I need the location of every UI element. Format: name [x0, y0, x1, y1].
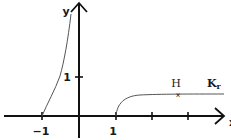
left-branch-curve: [42, 14, 71, 116]
x-axis: [4, 108, 224, 124]
right-branch-curve: [116, 94, 224, 116]
curve-kr-subscript: r: [217, 81, 222, 91]
function-graph: × y x −1 1 1 H Kr: [0, 0, 231, 140]
point-h-label: H: [171, 77, 181, 90]
y-axis: [71, 3, 87, 138]
x-tick-label-neg1: −1: [33, 125, 50, 138]
y-tick-label-1: 1: [63, 71, 71, 84]
curve-kr-main: K: [207, 77, 217, 90]
x-tick-label-1: 1: [109, 125, 117, 138]
x-axis-label: x: [229, 117, 231, 128]
curve-kr-label: Kr: [207, 77, 222, 91]
point-h-marker-icon: ×: [175, 91, 180, 98]
y-axis-label: y: [62, 5, 69, 18]
